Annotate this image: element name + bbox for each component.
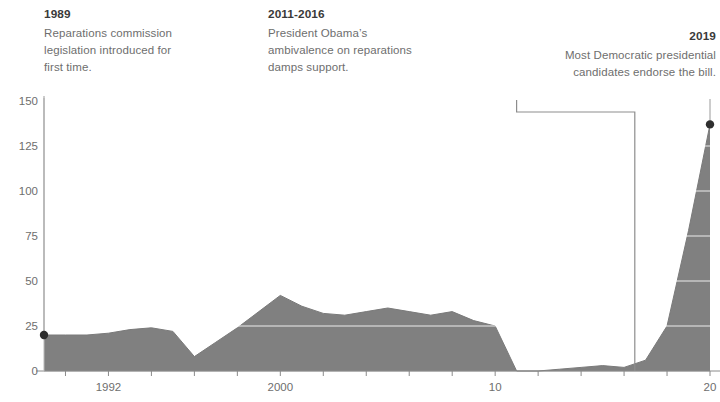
annotation-1989: 1989 Reparations commission legislation … <box>44 6 254 76</box>
annotation-2011-2016-title: 2011-2016 <box>268 6 483 23</box>
series-area-fill <box>44 124 710 371</box>
data-point-marker-1989 <box>40 331 48 339</box>
annotation-2019: 2019 Most Democratic presidential candid… <box>480 28 716 81</box>
y-axis-tick-label-25: 25 <box>4 320 38 332</box>
chart-figure: 1989 Reparations commission legislation … <box>0 0 720 402</box>
data-point-markers <box>40 120 714 339</box>
annotation-2011-2016-body: President Obama’s ambivalence on reparat… <box>268 25 483 76</box>
x-axis-tick-label-20: 20 <box>704 381 717 393</box>
x-axis-tick-label-1992: 1992 <box>96 381 122 393</box>
annotation-2019-body: Most Democratic presidential candidates … <box>480 47 716 81</box>
data-series-area <box>44 101 710 371</box>
y-axis-tick-label-125: 125 <box>4 140 38 152</box>
y-axis-tick-label-100: 100 <box>4 185 38 197</box>
y-axis-tick-label-0: 0 <box>4 365 38 377</box>
annotation-2011-2016: 2011-2016 President Obama’s ambivalence … <box>268 6 483 76</box>
y-axis-tick-label-50: 50 <box>4 275 38 287</box>
annotation-1989-title: 1989 <box>44 6 254 23</box>
y-axis-labels: 0255075100125150 <box>0 0 38 402</box>
y-axis-tick-label-75: 75 <box>4 230 38 242</box>
x-axis-tick-label-2000: 2000 <box>268 381 294 393</box>
annotation-1989-body: Reparations commission legislation intro… <box>44 25 254 76</box>
data-point-marker-2020 <box>706 120 714 128</box>
y-axis-tick-label-150: 150 <box>4 95 38 107</box>
annotation-2019-title: 2019 <box>480 28 716 45</box>
x-axis-tick-label-10: 10 <box>489 381 502 393</box>
